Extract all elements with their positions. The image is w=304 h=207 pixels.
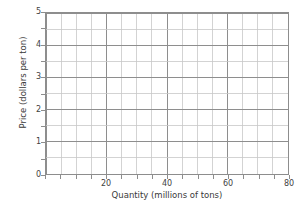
y-tick-label: 3 xyxy=(29,73,41,81)
grid-lines xyxy=(46,13,288,174)
x-tick-mark xyxy=(137,175,138,179)
x-tick-mark xyxy=(91,175,92,179)
y-axis-tick-labels: 012345 xyxy=(26,12,41,175)
x-tick-mark xyxy=(76,175,77,179)
x-axis-title: Quantity (millions of tons) xyxy=(45,191,289,200)
x-tick-mark xyxy=(274,175,275,179)
chart-figure: Price (dollars per ton) 012345 20406080 … xyxy=(0,0,304,207)
x-tick-mark xyxy=(243,175,244,179)
y-tick-label: 2 xyxy=(29,106,41,114)
x-tick-mark xyxy=(213,175,214,179)
y-axis-title-container: Price (dollars per ton) xyxy=(0,0,24,207)
x-tick-mark xyxy=(45,175,46,179)
x-tick-mark xyxy=(121,175,122,179)
y-tick-label: 1 xyxy=(29,138,41,146)
x-tick-mark xyxy=(198,175,199,179)
x-tick-label: 60 xyxy=(215,180,241,188)
x-tick-mark xyxy=(152,175,153,179)
x-tick-label: 40 xyxy=(154,180,180,188)
x-tick-label: 80 xyxy=(276,180,302,188)
y-tick-label: 0 xyxy=(29,171,41,179)
plot-area xyxy=(45,12,289,175)
x-tick-mark xyxy=(182,175,183,179)
x-tick-label: 20 xyxy=(93,180,119,188)
x-tick-mark xyxy=(259,175,260,179)
x-tick-mark xyxy=(60,175,61,179)
y-tick-label: 5 xyxy=(29,8,41,16)
y-tick-label: 4 xyxy=(29,41,41,49)
